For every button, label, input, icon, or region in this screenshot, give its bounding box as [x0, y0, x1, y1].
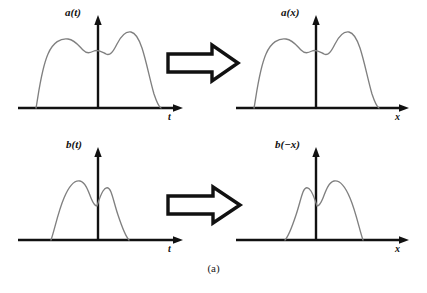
- x-axis-arrowhead: [399, 236, 409, 244]
- plot-panel-top-right: a(x) x: [236, 8, 416, 126]
- plot-svg-top-left: [18, 8, 188, 126]
- x-axis-arrowhead: [173, 236, 183, 244]
- plot-panel-bottom-right: b(−x) x: [236, 140, 416, 258]
- figure-container: a(t) t a(x) x b(t) t: [0, 0, 427, 293]
- plot-panel-bottom-left: b(t) t: [18, 140, 188, 258]
- transform-arrow-bottom: [166, 183, 244, 227]
- block-arrow-icon: [166, 42, 242, 84]
- y-axis-arrowhead: [94, 15, 101, 25]
- y-axis-arrowhead: [312, 15, 319, 25]
- signal-curve: [51, 181, 129, 240]
- figure-caption: (a): [0, 262, 427, 274]
- block-arrow-icon: [166, 183, 244, 227]
- reflected-group: [285, 181, 363, 240]
- arrow-right-icon: [168, 187, 240, 223]
- axis-label-top-left: t: [168, 111, 171, 122]
- y-axis-arrowhead: [94, 147, 101, 157]
- y-axis-arrowhead: [312, 147, 319, 157]
- plot-panel-top-left: a(t) t: [18, 8, 188, 126]
- axis-label-bottom-left: t: [168, 243, 171, 254]
- signal-label-top-right: a(x): [281, 6, 299, 18]
- x-axis-arrowhead: [399, 104, 409, 112]
- signal-label-bottom-right: b(−x): [275, 138, 300, 150]
- signal-label-top-left: a(t): [65, 6, 81, 18]
- x-axis-arrowhead: [173, 104, 183, 112]
- transform-arrow-top: [166, 42, 242, 84]
- arrow-right-icon: [168, 45, 238, 81]
- axis-label-top-right: x: [395, 111, 400, 122]
- plot-svg-bottom-left: [18, 140, 188, 258]
- signal-label-bottom-left: b(t): [66, 138, 82, 150]
- signal-curve: [285, 181, 363, 240]
- plot-svg-top-right: [236, 8, 416, 126]
- plot-svg-bottom-right: [236, 140, 416, 258]
- axis-label-bottom-right: x: [395, 243, 400, 254]
